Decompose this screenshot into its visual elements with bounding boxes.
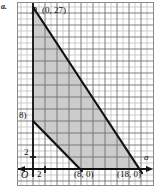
- point-label-8-0: (8, 0): [74, 170, 94, 179]
- x-axis-tick-label-2: 2: [37, 170, 42, 179]
- y-axis-tick-label-2: 2: [24, 148, 29, 157]
- coordinate-grid-and-region: [18, 3, 153, 185]
- figure-container: a.: [0, 0, 156, 188]
- problem-letter-label: a.: [1, 3, 7, 11]
- vertex-label-P: P: [31, 6, 37, 16]
- x-axis-variable-label: a: [144, 153, 149, 162]
- origin-label: O: [21, 170, 28, 180]
- point-label-18-0: (18, 0): [117, 170, 141, 179]
- point-label-0-27: (0, 27): [42, 6, 66, 15]
- x-axis-arrow-right: [146, 166, 153, 172]
- coordinate-plot-frame: P (0, 27) (0, 8) (8, 0) (18, 0) O 2 2 a: [17, 2, 154, 186]
- point-label-0-8: (0, 8): [17, 111, 27, 120]
